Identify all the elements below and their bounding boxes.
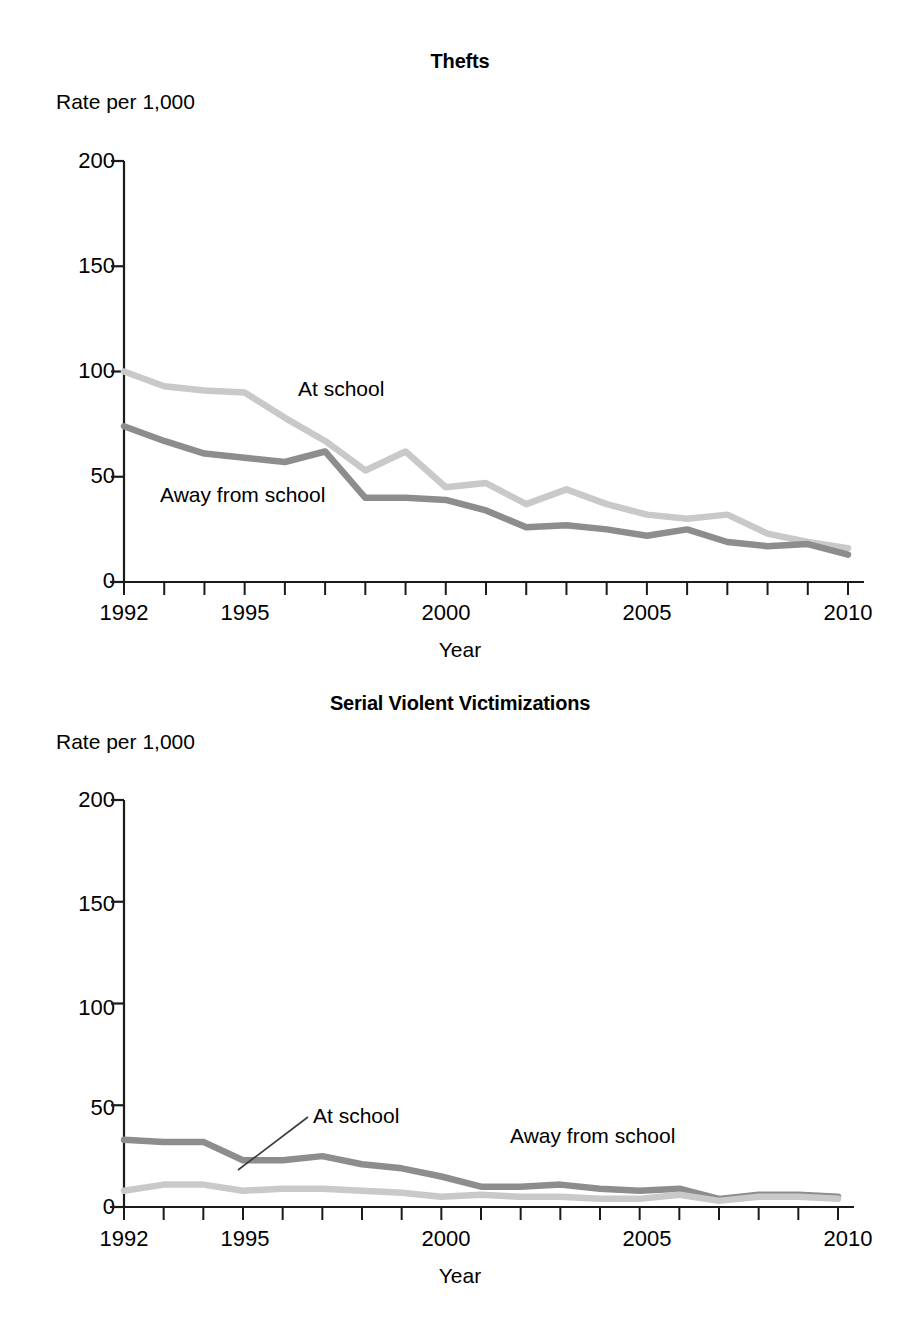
chart-panel-thefts: Thefts Rate per 1,000 200 150 100 50 0 1… (0, 0, 920, 670)
plot-area-violent (0, 670, 920, 1338)
series-line-away-from-school (124, 426, 848, 554)
chart-panel-violent: Serial Violent Victimizations Rate per 1… (0, 670, 920, 1338)
plot-area-thefts (0, 0, 920, 670)
series-line-at-school (124, 372, 848, 549)
figure-page: Thefts Rate per 1,000 200 150 100 50 0 1… (0, 0, 920, 1338)
